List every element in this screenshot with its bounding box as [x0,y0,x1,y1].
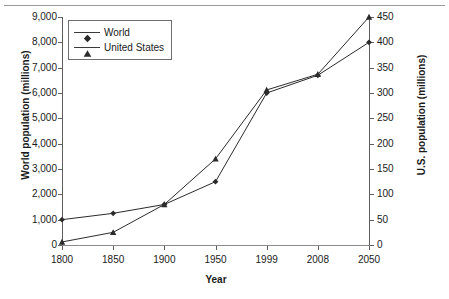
right-tick-mark [370,194,374,195]
right-tick-label: 350 [377,63,394,73]
triangle-marker-icon [74,42,100,53]
population-chart-figure: World population (millions) U.S. populat… [0,0,449,299]
right-tick-label: 450 [377,12,394,22]
chart-legend: World United States [68,20,172,60]
top-divider-rule [4,5,445,6]
x-tick-label: 1900 [142,255,186,265]
left-tick-label: 5,000 [32,113,57,123]
x-tick-label: 1950 [194,255,238,265]
right-tick-label: 50 [377,215,388,225]
right-tick-label: 0 [377,240,383,250]
x-tick-label: 2050 [347,255,391,265]
right-tick-mark [370,118,374,119]
left-tick-label: 2,000 [32,189,57,199]
data-point-marker [110,229,116,235]
right-tick-label: 150 [377,164,394,174]
right-tick-mark [370,245,374,246]
data-point-marker [213,179,219,185]
data-point-marker [366,39,372,45]
x-tick-mark [216,246,217,250]
x-tick-label: 2008 [296,255,340,265]
right-tick-label: 200 [377,139,394,149]
legend-label-world: World [104,27,130,38]
right-tick-label: 100 [377,189,394,199]
x-axis-title: Year [62,274,370,285]
x-tick-label: 1850 [91,255,135,265]
diamond-marker-icon [74,27,100,38]
x-tick-mark [164,246,165,250]
left-tick-label: 4,000 [32,139,57,149]
left-tick-label: 9,000 [32,12,57,22]
x-tick-label: 1999 [245,255,289,265]
legend-item-united-states[interactable]: United States [74,40,164,55]
right-tick-mark [370,220,374,221]
legend-item-world[interactable]: World [74,25,164,40]
x-tick-mark [369,246,370,250]
right-tick-mark [370,169,374,170]
right-tick-mark [370,144,374,145]
right-tick-mark [370,68,374,69]
right-tick-mark [370,93,374,94]
right-axis-title: U.S. population (millions) [416,54,427,175]
left-tick-label: 7,000 [32,63,57,73]
x-tick-mark [267,246,268,250]
right-tick-label: 300 [377,88,394,98]
left-axis-title-wrap: World population (millions) [18,0,32,229]
data-point-marker [110,210,116,216]
x-tick-mark [62,246,63,250]
left-tick-label: 0 [51,240,57,250]
left-tick-label: 1,000 [32,215,57,225]
left-tick-label: 6,000 [32,88,57,98]
left-axis-title: World population (millions) [20,50,31,179]
left-tick-label: 3,000 [32,164,57,174]
x-tick-mark [113,246,114,250]
x-tick-label: 1800 [40,255,84,265]
right-tick-label: 400 [377,37,394,47]
x-tick-mark [318,246,319,250]
right-tick-label: 250 [377,113,394,123]
left-tick-label: 8,000 [32,37,57,47]
legend-label-united-states: United States [104,42,164,53]
right-axis-title-wrap: U.S. population (millions) [414,0,428,229]
data-point-marker [59,217,65,223]
